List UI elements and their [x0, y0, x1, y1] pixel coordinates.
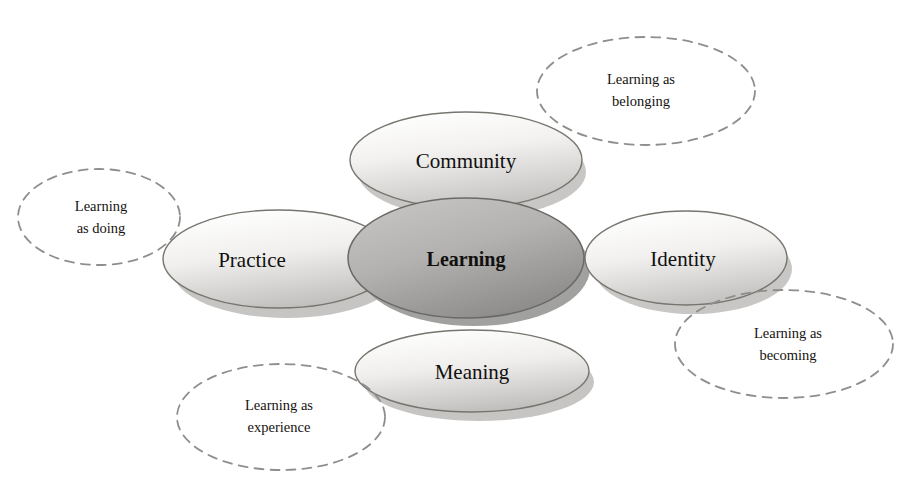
node-learning-center[interactable]: Learning — [348, 198, 584, 318]
diagram-svg: Community Practice Identity Meaning Lear… — [0, 0, 911, 487]
learning-label: Learning — [427, 248, 506, 271]
node-community[interactable]: Community — [350, 112, 582, 208]
callout-experience-line-2: experience — [248, 419, 311, 435]
meaning-label: Meaning — [435, 360, 510, 384]
callout-doing-line-1: Learning — [75, 198, 127, 214]
identity-label: Identity — [650, 247, 716, 271]
callout-experience-line-1: Learning as — [245, 397, 313, 413]
callout-experience[interactable]: Learning as experience — [177, 364, 385, 470]
community-label: Community — [416, 149, 517, 173]
callout-becoming-line-1: Learning as — [754, 325, 822, 341]
callout-becoming-line-2: becoming — [759, 347, 816, 363]
node-identity[interactable]: Identity — [585, 211, 787, 305]
callout-belonging-line-2: belonging — [612, 93, 670, 109]
callout-doing-ellipse[interactable] — [18, 169, 180, 265]
callout-experience-ellipse[interactable] — [177, 364, 385, 470]
callout-belonging-ellipse[interactable] — [537, 37, 755, 145]
callout-doing-line-2: as doing — [77, 220, 126, 236]
callout-belonging-line-1: Learning as — [607, 71, 675, 87]
callout-belonging[interactable]: Learning as belonging — [537, 37, 755, 145]
callout-doing[interactable]: Learning as doing — [18, 169, 180, 265]
diagram-canvas: Community Practice Identity Meaning Lear… — [0, 0, 911, 487]
node-meaning[interactable]: Meaning — [355, 330, 589, 412]
practice-label: Practice — [218, 248, 286, 272]
